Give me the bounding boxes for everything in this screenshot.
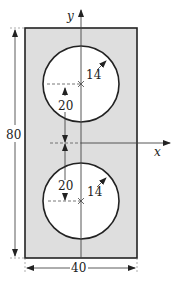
- plate-with-holes-diagram: y x 20 20 14 14 80 40: [0, 0, 179, 288]
- y-axis-label: y: [66, 9, 74, 23]
- width-label: 40: [71, 261, 86, 275]
- upper-offset-label: 20: [58, 99, 73, 113]
- lower-offset-label: 20: [58, 179, 73, 193]
- upper-radius-label: 14: [86, 68, 102, 82]
- lower-radius-label: 14: [87, 185, 103, 199]
- height-label: 80: [6, 128, 21, 142]
- x-axis-label: x: [154, 145, 161, 159]
